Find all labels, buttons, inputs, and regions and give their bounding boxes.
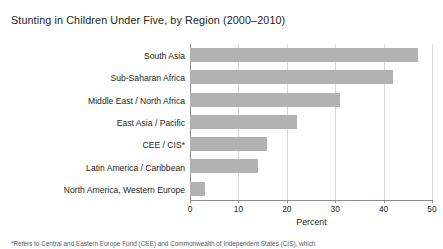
category-label-cee-cis: CEE / CIS* (0, 140, 185, 150)
bar-north-america-western-europe[interactable] (190, 182, 205, 196)
category-label-text: South Asia (144, 51, 185, 61)
x-tick-mark (384, 200, 385, 203)
bar-east-asia-pacific[interactable] (190, 115, 297, 129)
x-tick-mark (287, 200, 288, 203)
bar-sub-saharan-africa[interactable] (190, 70, 393, 84)
x-tick-label: 0 (188, 204, 193, 214)
x-tick-label: 40 (379, 204, 388, 214)
x-tick-mark (335, 200, 336, 203)
category-label-text: Latin America / Caribbean (86, 163, 185, 173)
bar-row (190, 178, 432, 200)
category-label-text: East Asia / Pacific (117, 118, 185, 128)
x-tick-mark (238, 200, 239, 203)
x-tick-label: 50 (427, 204, 436, 214)
bar-row (190, 66, 432, 88)
x-axis-line (190, 200, 433, 201)
bar-south-asia[interactable] (190, 48, 418, 62)
x-tick-mark (432, 200, 433, 203)
footnote: *Refers to Central and Eastern Europe Fu… (11, 240, 315, 248)
chart-figure: Stunting in Children Under Five, by Regi… (0, 0, 443, 249)
category-label-latin-america-caribbean: Latin America / Caribbean (0, 163, 185, 173)
bar-cee-cis[interactable] (190, 137, 267, 151)
bar-middle-east-north-africa[interactable] (190, 93, 340, 107)
category-label-east-asia-pacific: East Asia / Pacific (0, 118, 185, 128)
x-axis-label: Percent (190, 217, 433, 227)
page-title: Stunting in Children Under Five, by Regi… (11, 14, 285, 26)
gridline (432, 44, 433, 200)
x-tick-label: 20 (282, 204, 291, 214)
x-tick-mark (190, 200, 191, 203)
category-label-text: Sub-Saharan Africa (110, 73, 185, 83)
category-label-sub-saharan-africa: Sub-Saharan Africa (0, 73, 185, 83)
category-label-text: Middle East / North Africa (88, 96, 185, 106)
plot-area (190, 44, 432, 200)
bar-row (190, 155, 432, 177)
bar-row (190, 133, 432, 155)
bar-latin-america-caribbean[interactable] (190, 159, 258, 173)
bar-row (190, 44, 432, 66)
bar-row (190, 111, 432, 133)
figure-top-border (0, 0, 443, 3)
category-label-text: CEE / CIS* (142, 140, 185, 150)
x-tick-label: 30 (331, 204, 340, 214)
category-label-middle-east-north-africa: Middle East / North Africa (0, 96, 185, 106)
category-label-north-america-western-europe: North America, Western Europe (0, 185, 185, 195)
x-tick-label: 10 (234, 204, 243, 214)
bar-row (190, 89, 432, 111)
category-label-text: North America, Western Europe (64, 185, 185, 195)
category-label-south-asia: South Asia (0, 51, 185, 61)
